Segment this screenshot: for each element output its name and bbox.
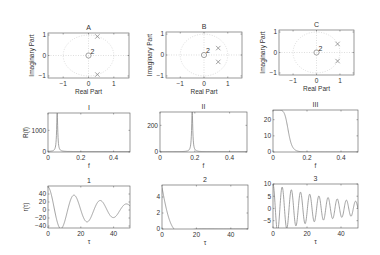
x-tick-label: 1 [226,80,230,87]
subplot-1: 102040−40−2002040τr(τ) [22,177,130,245]
y-tick-label: 10 [264,180,272,187]
pole-marker [216,46,220,50]
y-tick-label: 5 [267,193,271,200]
axes-frame [162,185,248,229]
y-tick-label: −1 [39,72,47,79]
subplot-title: A [86,24,91,31]
axes-frame [48,186,130,228]
subplot-C: C2−101−101Real PartImaginary Part [259,21,354,92]
y-tick-label: 20 [39,198,47,205]
x-tick-label: 0 [271,230,275,237]
data-line [273,110,358,152]
data-line [48,113,130,151]
zero-multiplicity-label: 2 [206,47,210,54]
y-tick-label: −40 [35,222,46,229]
plot-area: 2 [279,30,354,75]
x-tick-label: 0 [315,77,319,84]
x-tick-label: 0.2 [76,154,85,161]
axes-frame [273,110,358,152]
y-tick-label: −5 [264,217,272,224]
axes-frame [160,112,247,152]
x-tick-label: 0 [158,154,162,161]
x-tick-label: 40 [110,230,118,237]
plot-area [273,110,358,152]
data-line [48,187,130,229]
subplot-title: C [314,21,319,28]
y-tick-label: −20 [35,214,46,221]
y-tick-label: 0 [42,148,46,155]
y-tick-label: 2 [156,209,160,216]
x-axis-label: τ [204,239,207,246]
x-axis-label: Real Part [190,88,217,95]
x-axis-label: Real Part [75,88,102,95]
x-tick-label: −1 [289,77,297,84]
y-tick-label: 0 [42,206,46,213]
y-tick-label: 1 [160,30,164,37]
pole-marker [95,34,99,38]
y-tick-label: 0 [267,205,271,212]
y-tick-label: −1 [157,72,165,79]
x-tick-label: 1 [338,77,342,84]
x-tick-label: 40 [337,230,345,237]
subplot-title: I [88,104,90,111]
figure-canvas: A2−101−101Real PartImaginary PartB2−101−… [0,0,380,255]
zero-multiplicity-label: 2 [91,48,95,55]
y-tick-label: 200 [147,122,158,129]
x-tick-label: 20 [77,230,85,237]
subplot-III: III00.20.401020f [264,101,358,169]
plot-area [273,184,358,231]
y-axis-label: R(f) [22,127,30,138]
plot-area [48,113,130,151]
x-tick-label: 0.4 [225,154,234,161]
subplot-II: II00.20.40200f [147,103,247,169]
x-axis-label: τ [314,238,317,245]
x-tick-label: 0 [160,231,164,238]
subplot-title: 2 [203,176,207,183]
x-tick-label: 0.2 [190,154,199,161]
x-tick-label: 0.4 [336,154,345,161]
x-axis-label: f [88,162,90,169]
y-tick-label: 0 [273,49,277,56]
y-tick-label: 1 [273,28,277,35]
x-tick-label: 0 [202,80,206,87]
y-tick-label: 1000 [32,127,47,134]
y-axis-label: Imaginary Part [28,34,36,76]
x-tick-label: 0 [46,154,50,161]
x-tick-label: −1 [59,80,67,87]
pole-marker [335,59,339,63]
y-tick-label: 0 [267,148,271,155]
subplot-title: III [313,101,319,108]
y-tick-label: 40 [39,190,47,197]
subplot-A: A2−101−101Real PartImaginary Part [28,24,129,95]
x-axis-label: f [315,162,317,169]
x-tick-label: 40 [227,231,235,238]
y-axis-label: r(τ) [22,202,30,211]
y-tick-label: 0 [160,51,164,58]
y-tick-label: 10 [264,132,272,139]
plot-area: 2 [48,33,129,78]
plot-area [162,187,248,232]
pole-marker [216,60,220,64]
subplot-title: B [202,23,207,30]
y-tick-label: 0 [154,148,158,155]
pole-marker [95,72,99,76]
x-tick-label: 0.4 [109,154,118,161]
x-axis-label: f [203,162,205,169]
y-tick-label: 20 [264,116,272,123]
y-axis-label: Imaginary Part [146,34,154,76]
x-tick-label: 1 [112,80,116,87]
subplot-3: 302040−50510τ [264,175,358,245]
subplot-2: 202040024τ [156,176,248,246]
plot-area [160,112,247,152]
data-line [160,112,247,152]
x-tick-label: 0 [46,230,50,237]
subplot-B: B2−101−101Real PartImaginary Part [146,23,242,95]
zero-multiplicity-label: 2 [319,45,323,52]
y-tick-label: −1 [270,69,278,76]
x-axis-label: τ [88,238,91,245]
subplot-title: 1 [87,177,91,184]
axes-frame [48,113,130,152]
x-tick-label: 0 [87,80,91,87]
x-tick-label: 20 [303,230,311,237]
y-tick-label: 0 [42,52,46,59]
